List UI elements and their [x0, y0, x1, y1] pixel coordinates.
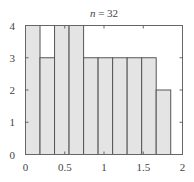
- histogram-bar: [156, 90, 171, 155]
- histogram-bars: [26, 26, 171, 155]
- y-tick-label: 1: [10, 116, 16, 128]
- y-tick-label: 2: [10, 84, 16, 96]
- histogram-bar: [84, 58, 99, 155]
- y-tick-label: 0: [10, 149, 16, 161]
- histogram-bar: [40, 58, 55, 155]
- x-tick-label: 1: [101, 161, 107, 173]
- x-tick-label: 0.5: [58, 161, 72, 173]
- histogram-bar: [113, 58, 128, 155]
- histogram-bar: [55, 26, 70, 155]
- y-tick-label: 3: [10, 52, 16, 64]
- histogram-bar: [127, 58, 142, 155]
- x-tick-label: 0: [23, 161, 29, 173]
- histogram-chart: n = 32 01234 00.511.52: [0, 0, 194, 182]
- histogram-bar: [142, 58, 157, 155]
- x-tick-label: 1.5: [136, 161, 150, 173]
- chart-title: n = 32: [90, 7, 118, 19]
- x-tick-label: 2: [180, 161, 186, 173]
- histogram-bar: [69, 26, 84, 155]
- y-tick-label: 4: [10, 20, 16, 32]
- histogram-bar: [98, 58, 113, 155]
